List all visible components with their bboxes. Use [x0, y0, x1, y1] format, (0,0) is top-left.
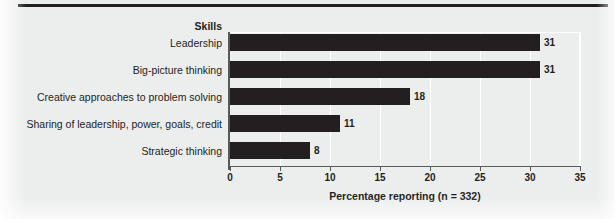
bar-value-label: 31: [544, 37, 555, 48]
category-label: Strategic thinking: [141, 145, 222, 157]
plot-area: [230, 32, 580, 166]
bar-value-label: 31: [544, 64, 555, 75]
gridline: [580, 32, 581, 166]
bar: [230, 142, 310, 159]
bar-row: [230, 34, 580, 51]
bar-row: [230, 61, 580, 78]
bar-value-label: 18: [414, 91, 425, 102]
chart-figure: Skills LeadershipBig-picture thinkingCre…: [0, 0, 615, 219]
tick-label: 0: [227, 172, 233, 183]
bar: [230, 61, 540, 78]
bar-row: [230, 88, 580, 105]
tick-label: 35: [574, 172, 585, 183]
tick-mark: [280, 167, 281, 171]
bar-value-label: 11: [344, 118, 355, 129]
top-rule-divider: [18, 4, 608, 7]
bar-row: [230, 115, 580, 132]
x-axis-title: Percentage reporting (n = 332): [230, 190, 580, 202]
tick-label: 30: [524, 172, 535, 183]
tick-mark: [230, 167, 231, 171]
tick-mark: [580, 167, 581, 171]
bar-value-label: 8: [314, 145, 320, 156]
tick-mark: [530, 167, 531, 171]
category-label: Sharing of leadership, power, goals, cre…: [26, 118, 222, 130]
bar: [230, 88, 410, 105]
tick-mark: [430, 167, 431, 171]
bar-row: [230, 142, 580, 159]
tick-label: 5: [277, 172, 283, 183]
tick-mark: [380, 167, 381, 171]
tick-label: 15: [374, 172, 385, 183]
tick-label: 20: [424, 172, 435, 183]
plot-frame-top: [230, 32, 580, 33]
tick-label: 25: [474, 172, 485, 183]
category-label: Leadership: [170, 37, 222, 49]
bar: [230, 115, 340, 132]
category-label: Big-picture thinking: [133, 64, 222, 76]
category-axis-header: Skills: [0, 20, 222, 32]
tick-mark: [480, 167, 481, 171]
bar: [230, 34, 540, 51]
category-label: Creative approaches to problem solving: [37, 91, 222, 103]
tick-label: 10: [324, 172, 335, 183]
x-axis-line: [230, 166, 581, 167]
tick-mark: [330, 167, 331, 171]
